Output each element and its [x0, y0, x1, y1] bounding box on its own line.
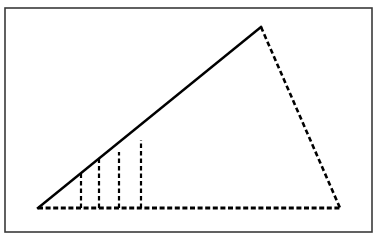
figure-container — [0, 0, 381, 240]
triangle-diagram — [0, 0, 381, 240]
figure-border — [5, 8, 372, 232]
